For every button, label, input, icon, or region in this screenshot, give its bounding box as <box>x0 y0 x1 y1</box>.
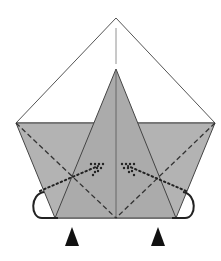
origami-diagram <box>0 0 221 261</box>
push-marker-left-icon <box>65 227 79 246</box>
push-marker-right-icon <box>151 227 165 246</box>
